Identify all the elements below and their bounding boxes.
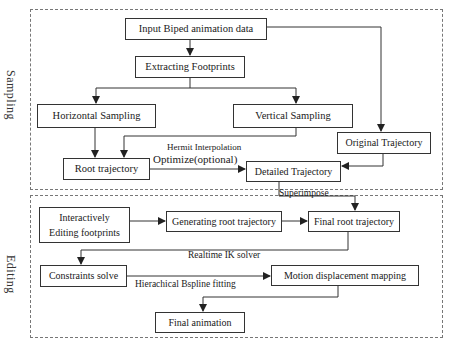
node-generating-root-trajectory: Generating root trajectory <box>166 211 282 232</box>
flowchart-canvas: Sampling Editing <box>0 0 451 348</box>
edge-label-hermit-interpolation: Hermit Interpolation <box>167 142 241 152</box>
node-interactively-editing-line2: Editing footprints <box>49 225 120 241</box>
node-horizontal-sampling: Horizontal Sampling <box>37 104 156 128</box>
node-input-biped-animation-data: Input Biped animation data <box>125 18 267 40</box>
node-root-trajectory: Root trajectory <box>63 158 150 180</box>
node-extracting-footprints: Extracting Footprints <box>135 56 245 78</box>
edge-label-optimize-optional: Optimize(optional) <box>153 153 237 165</box>
node-interactively-editing-footprints: Interactively Editing footprints <box>39 207 130 243</box>
node-final-root-trajectory: Final root trajectory <box>308 211 400 232</box>
edge-original-to-detailed <box>342 154 383 166</box>
node-detailed-trajectory: Detailed Trajectory <box>246 161 341 182</box>
edge-label-hierarchical-bspline-fitting: Hierachical Bspline fitting <box>135 279 236 289</box>
node-original-trajectory: Original Trajectory <box>337 132 431 154</box>
edge-motion-to-final-animation <box>203 286 338 311</box>
node-constraints-solve: Constraints solve <box>40 265 127 287</box>
edge-label-realtime-ik-solver: Realtime IK solver <box>188 250 260 260</box>
node-motion-displacement-mapping: Motion displacement mapping <box>271 265 419 286</box>
node-final-animation: Final animation <box>155 312 245 333</box>
node-interactively-editing-line1: Interactively <box>59 210 110 226</box>
edge-label-superimpose: Superimpose <box>279 188 329 198</box>
node-vertical-sampling: Vertical Sampling <box>233 104 353 128</box>
